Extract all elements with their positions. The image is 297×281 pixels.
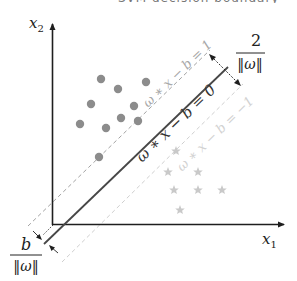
y-axis-label: x2 — [29, 14, 44, 34]
margin-numerator: 2 — [251, 31, 261, 50]
offset-denominator: ‖ω‖ — [13, 258, 38, 275]
offset-numerator: b — [21, 235, 31, 254]
svm-diagram: ω ∗ x − b = 0 ω ∗ x − b = 1 ω ∗ x − b = … — [0, 0, 297, 281]
offset-guide — [43, 225, 53, 235]
x-axis-label: x1 — [262, 230, 277, 250]
lower-margin-line — [62, 84, 243, 262]
margin-denominator: ‖ω‖ — [237, 56, 262, 73]
